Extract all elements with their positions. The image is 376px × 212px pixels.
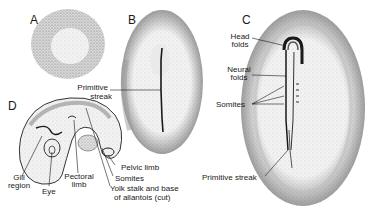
label-b-primitive-streak-2: streak — [70, 93, 112, 101]
label-d-yolk-stalk-1: Yolk stalk and base — [110, 185, 179, 193]
label-d-yolk-stalk-2: of allantois (cut) — [114, 194, 170, 202]
label-c-head-folds-2: folds — [224, 41, 256, 49]
panel-letter-a: A — [30, 14, 38, 26]
label-c-primitive-streak: Primitive streak — [202, 174, 257, 182]
panel-letter-b: B — [128, 14, 136, 26]
label-b-primitive-streak-1: Primitive — [70, 84, 108, 92]
label-d-pectoral-limb-2: limb — [62, 181, 96, 189]
label-d-pelvic-limb: Pelvic limb — [121, 164, 159, 172]
label-d-gill-region-2: region — [4, 182, 34, 190]
label-c-somites: Somites — [216, 101, 245, 109]
label-d-somites: Somites — [115, 175, 144, 183]
label-c-neural-folds-2: folds — [222, 74, 256, 82]
panel-letter-c: C — [242, 14, 251, 26]
panel-a-blastoderm — [31, 9, 105, 79]
panel-letter-d: D — [8, 100, 17, 112]
label-d-eye: Eye — [42, 188, 56, 196]
panel-c-embryo — [241, 10, 365, 206]
panel-b-embryo — [110, 10, 203, 154]
embryo-figure — [0, 0, 376, 212]
